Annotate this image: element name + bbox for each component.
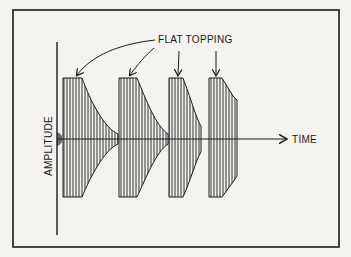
- amplitude-axis-label: AMPLITUDE: [43, 116, 54, 176]
- burst-3: [169, 78, 201, 197]
- arrow-to-burst-1: [77, 40, 155, 75]
- annotation-arrows: [77, 40, 216, 75]
- flat-topping-label: FLAT TOPPING: [158, 34, 233, 45]
- burst-2: [119, 78, 168, 197]
- flat-topping-diagram: TIME AMPLITUDE FLAT TOPPING: [0, 0, 351, 257]
- arrow-to-burst-2: [130, 48, 154, 75]
- arrow-to-burst-3: [178, 51, 179, 75]
- time-axis-label: TIME: [292, 134, 317, 145]
- burst-4: [209, 78, 237, 197]
- burst-1: [63, 78, 118, 197]
